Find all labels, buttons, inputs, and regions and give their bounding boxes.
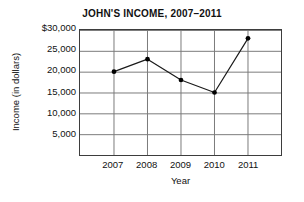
y-axis-label-text: Income (in dollars)	[10, 53, 21, 131]
y-tick-label: 20,000	[22, 65, 76, 75]
x-tick-label: 2011	[226, 159, 270, 171]
y-axis-label: Income (in dollars)	[8, 28, 22, 156]
chart-title: JOHN'S INCOME, 2007–2011	[0, 8, 304, 19]
y-axis-tick-labels: $30,00025,00020,00015,00010,0005,000	[22, 28, 76, 156]
y-tick-label: 15,000	[22, 87, 76, 97]
plot-area	[79, 29, 282, 156]
x-axis-label: Year	[79, 175, 282, 186]
y-tick-label: $30,000	[22, 23, 76, 33]
x-axis-tick-labels: 20072008200920102011	[79, 159, 282, 173]
y-tick-label: 25,000	[22, 44, 76, 54]
income-series	[80, 30, 281, 155]
y-tick-label: 5,000	[22, 129, 76, 139]
y-tick-label: 10,000	[22, 108, 76, 118]
income-line-chart: JOHN'S INCOME, 2007–2011 Income (in doll…	[0, 0, 304, 202]
